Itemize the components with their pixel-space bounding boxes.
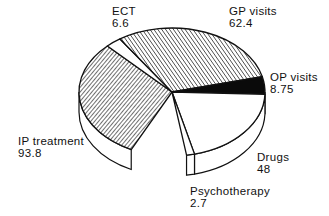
label-ip-treatment: IP treatment 93.8 xyxy=(18,135,84,159)
label-ect-value: 6.6 xyxy=(112,17,136,29)
pie-chart xyxy=(0,0,329,216)
label-psychotherapy: Psychotherapy 2.7 xyxy=(190,185,270,209)
label-op-value: 8.75 xyxy=(270,83,318,95)
label-op-name: OP visits xyxy=(270,71,318,83)
label-gp-visits: GP visits 62.4 xyxy=(229,5,277,29)
label-gp-name: GP visits xyxy=(229,5,277,17)
label-op-visits: OP visits 8.75 xyxy=(270,71,318,95)
label-ect-name: ECT xyxy=(112,5,136,17)
slice-side-psychotherapy xyxy=(187,154,195,175)
label-gp-value: 62.4 xyxy=(229,17,277,29)
label-ip-value: 93.8 xyxy=(18,147,84,159)
label-ect: ECT 6.6 xyxy=(112,5,136,29)
pie-slices xyxy=(79,28,265,155)
label-psycho-value: 2.7 xyxy=(190,197,270,209)
label-drugs-value: 48 xyxy=(257,163,289,175)
label-drugs-name: Drugs xyxy=(257,151,289,163)
label-ip-name: IP treatment xyxy=(18,135,84,147)
label-drugs: Drugs 48 xyxy=(257,151,289,175)
label-psycho-name: Psychotherapy xyxy=(190,185,270,197)
